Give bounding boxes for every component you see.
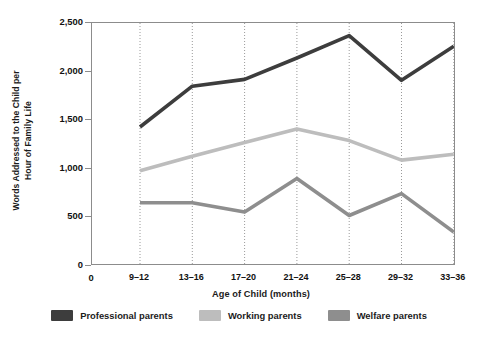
legend-item[interactable]: Welfare parents: [328, 310, 427, 321]
legend-item[interactable]: Professional parents: [51, 310, 173, 321]
y-axis-tick-label: 2,500: [60, 16, 83, 27]
y-axis-tick-label: 1,500: [60, 113, 83, 124]
x-axis-tick-label: 29–32: [388, 272, 413, 282]
series-canvas: [92, 23, 454, 264]
plot-area: [91, 22, 455, 265]
y-axis-title-line2: Hour of Family Life: [22, 101, 32, 180]
chart-legend: Professional parentsWorking parentsWelfa…: [0, 310, 478, 321]
x-axis-tick-label: 21–24: [283, 272, 308, 282]
x-axis-origin-label: 0: [88, 272, 93, 283]
legend-label: Welfare parents: [357, 310, 427, 321]
y-axis-title-line1: Words Addressed to the Child per: [11, 70, 21, 210]
legend-label: Working parents: [228, 310, 302, 321]
series-line: [140, 179, 454, 233]
x-axis-tick-label: 33–36: [440, 272, 465, 282]
x-axis-tick-label: 13–16: [179, 272, 204, 282]
y-axis-tick: [85, 265, 91, 266]
x-axis-tick-label: 25–28: [336, 272, 361, 282]
x-axis-title: Age of Child (months): [0, 289, 478, 299]
legend-swatch: [199, 310, 221, 321]
legend-swatch: [51, 310, 73, 321]
y-axis-tick-label: 1,000: [60, 162, 83, 173]
y-axis-title: Words Addressed to the Child per Hour of…: [0, 0, 44, 280]
y-axis-tick-label: 0: [78, 259, 83, 270]
legend-swatch: [328, 310, 350, 321]
legend-label: Professional parents: [80, 310, 173, 321]
x-axis-tick-label: 17–20: [231, 272, 256, 282]
y-axis-tick-label: 500: [67, 210, 83, 221]
chart-figure: Words Addressed to the Child per Hour of…: [0, 0, 478, 340]
x-axis-tick-label: 9–12: [129, 272, 149, 282]
y-axis-tick-label: 2,000: [60, 65, 83, 76]
legend-item[interactable]: Working parents: [199, 310, 302, 321]
